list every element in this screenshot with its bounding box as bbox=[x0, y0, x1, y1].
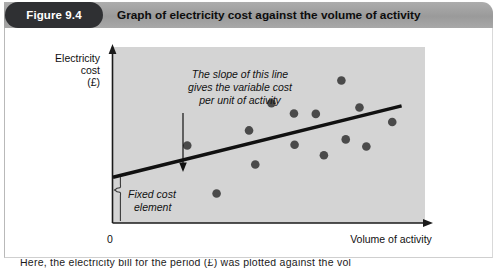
scatter-point bbox=[320, 151, 329, 160]
scatter-point bbox=[388, 118, 397, 127]
figure-frame: Figure 9.4 Graph of electricity cost aga… bbox=[0, 0, 497, 275]
x-axis-arrowhead bbox=[423, 219, 433, 227]
x-axis-label: Volume of activity bbox=[350, 233, 432, 245]
fixed-cost-annotation-line1: Fixed cost bbox=[128, 188, 177, 200]
caption-text: Here, the electricity bill for the perio… bbox=[20, 259, 486, 269]
y-axis-label-line3: (£) bbox=[87, 76, 100, 88]
scatter-point bbox=[341, 135, 350, 144]
y-axis-label-line1: Electricity bbox=[55, 52, 101, 64]
y-axis-label-line2: cost bbox=[81, 64, 100, 76]
scatter-point bbox=[337, 76, 346, 85]
scatter-point bbox=[290, 140, 299, 149]
scatter-point bbox=[355, 103, 364, 112]
slope-annotation-line2: gives the variable cost bbox=[188, 81, 293, 93]
chart-canvas: Electricity cost (£) Volume of activity … bbox=[0, 0, 497, 258]
origin-tick-label: 0 bbox=[107, 233, 113, 245]
scatter-point bbox=[245, 126, 254, 135]
scatter-point bbox=[362, 142, 371, 151]
slope-annotation-line1: The slope of this line bbox=[192, 68, 288, 80]
scatter-point bbox=[312, 110, 321, 119]
scatter-point bbox=[251, 160, 260, 169]
scatter-point bbox=[183, 141, 192, 150]
scatter-chart: Electricity cost (£) Volume of activity … bbox=[0, 0, 497, 258]
slope-annotation-line3: per unit of activity bbox=[198, 94, 281, 106]
fixed-cost-annotation-line2: element bbox=[134, 201, 172, 213]
caption-clip-region: Here, the electricity bill for the perio… bbox=[4, 259, 493, 275]
scatter-point bbox=[290, 109, 299, 118]
scatter-point bbox=[212, 189, 221, 198]
